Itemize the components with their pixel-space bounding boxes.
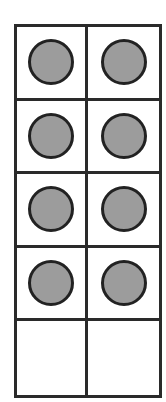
counter-circle-icon (28, 113, 74, 159)
filled-cell (17, 27, 88, 101)
empty-cell (88, 321, 159, 395)
filled-cell (88, 101, 159, 175)
filled-cell (17, 101, 88, 175)
filled-cell (17, 248, 88, 322)
filled-cell (88, 27, 159, 101)
counter-circle-icon (28, 260, 74, 306)
counter-circle-icon (101, 39, 147, 85)
counter-circle-icon (101, 260, 147, 306)
counter-circle-icon (28, 39, 74, 85)
filled-cell (88, 248, 159, 322)
counter-circle-icon (28, 186, 74, 232)
ten-frame (14, 24, 162, 398)
counter-circle-icon (101, 186, 147, 232)
filled-cell (88, 174, 159, 248)
counter-circle-icon (101, 113, 147, 159)
empty-cell (17, 321, 88, 395)
filled-cell (17, 174, 88, 248)
